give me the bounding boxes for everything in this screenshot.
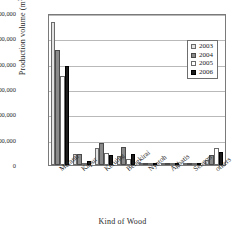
legend: 2003200420052006	[187, 40, 218, 79]
y-axis-title-base: Production volume (m	[18, 1, 27, 75]
y-axis-tick-label: 300,000	[0, 86, 16, 93]
bar-group	[49, 15, 71, 165]
chart-figure: Production volume (m3) 2003200420052006 …	[0, 0, 245, 238]
y-axis-tick-label: 400,000	[0, 61, 16, 68]
legend-item: 2004	[191, 52, 213, 59]
x-axis-title: Kind of Wood	[0, 217, 245, 226]
y-axis-tick-label: 0	[0, 162, 16, 169]
legend-item: 2003	[191, 43, 213, 50]
legend-label: 2006	[199, 69, 213, 76]
bar-group	[159, 15, 181, 165]
legend-swatch-icon	[191, 44, 196, 49]
y-axis-tick-label: 500,000	[0, 35, 16, 42]
legend-swatch-icon	[191, 61, 196, 66]
legend-item: 2006	[191, 69, 213, 76]
legend-swatch-icon	[191, 70, 196, 75]
bar-group	[71, 15, 93, 165]
plot-area: 2003200420052006	[48, 14, 226, 166]
legend-label: 2003	[199, 43, 213, 50]
y-axis-tick-label: 600,000	[0, 10, 16, 17]
y-axis-tick-label: 100,000	[0, 137, 16, 144]
bar-group	[137, 15, 159, 165]
bar	[65, 66, 70, 165]
bar-group	[115, 15, 137, 165]
bar-group	[203, 15, 225, 165]
y-axis-tick-label: 200,000	[0, 111, 16, 118]
legend-label: 2005	[199, 60, 213, 67]
legend-item: 2005	[191, 60, 213, 67]
legend-label: 2004	[199, 52, 213, 59]
bar-group	[181, 15, 203, 165]
bar-groups	[49, 15, 225, 165]
y-axis-title-superscript: 3	[17, 0, 23, 1]
y-axis-title: Production volume (m3)	[17, 0, 28, 95]
bar-group	[93, 15, 115, 165]
legend-swatch-icon	[191, 53, 196, 58]
